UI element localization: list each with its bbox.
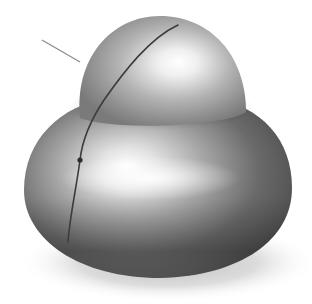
render-canvas — [0, 0, 312, 304]
top-dome[interactable] — [79, 16, 246, 126]
curve-point[interactable] — [77, 157, 82, 162]
3d-viewport[interactable]: Shaded 3D surface of revolution (bell/mu… — [0, 0, 312, 304]
leader-line — [42, 40, 80, 62]
